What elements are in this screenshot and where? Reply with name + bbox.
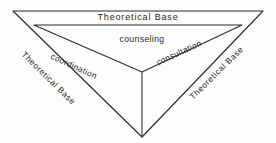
label-top-theoretical-base: Theoretical Base (97, 13, 178, 22)
label-counseling: counseling (119, 35, 164, 44)
theoretical-base-diagram: Theoretical Base counseling Theoretical … (0, 0, 276, 143)
